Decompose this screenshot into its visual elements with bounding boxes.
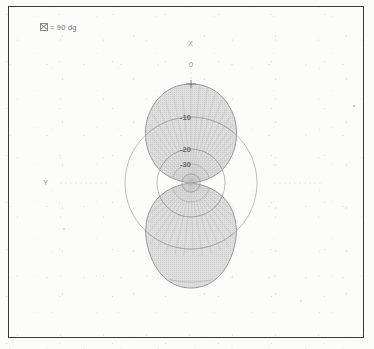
polar-plot-screenshot: = 90 dg X Y 0 -10 -20 -30 [0,0,374,349]
plot-border-frame [8,6,364,338]
